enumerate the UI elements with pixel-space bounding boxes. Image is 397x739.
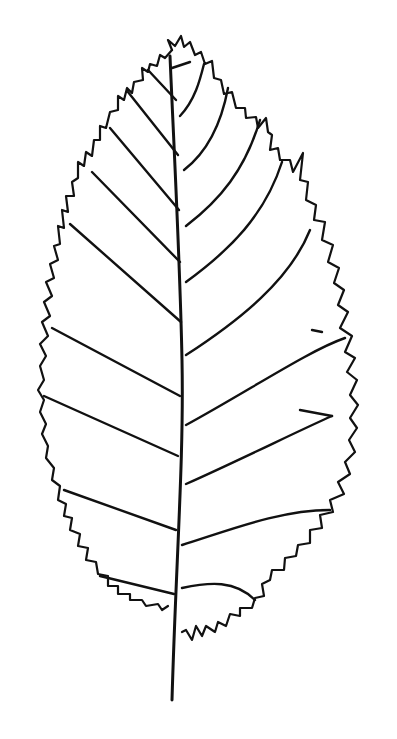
leaf-illustration xyxy=(0,0,397,739)
leaf-drawing-canvas xyxy=(0,0,397,739)
right-veins xyxy=(172,62,345,600)
leaf-outline xyxy=(168,36,358,640)
